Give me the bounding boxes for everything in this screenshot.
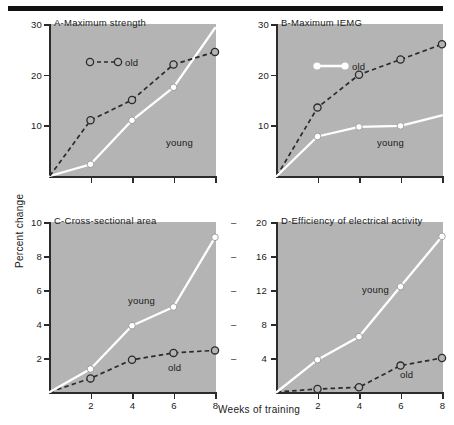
panel-b-old-markers (314, 41, 446, 112)
panel-b-annotation-young: young (377, 137, 404, 148)
panel-d-efficiency-of-electrical-activity: D-Efficiency of electrical activity 20 1… (227, 212, 454, 425)
panel-c-young-line-path (50, 237, 215, 392)
panel-d-annotation-young: young (362, 284, 389, 295)
figure-root: Percent change Weeks of training A-Maxim… (0, 0, 454, 425)
panel-d-young-markers (314, 233, 445, 363)
panel-b-legend-label-old: old (352, 61, 365, 72)
panel-a-series-svg (0, 0, 227, 212)
panel-a-old-line (50, 52, 215, 176)
panel-c-series-svg (0, 212, 227, 425)
panel-c-annotation-young: young (128, 295, 155, 306)
panel-d-series-svg (227, 212, 454, 425)
panel-a-annotation-young: young (166, 137, 193, 148)
panel-b-maximum-iemg: B-Maximum IEMG 30 20 10 (227, 0, 454, 212)
panel-c-annotation-old: old (168, 362, 181, 373)
panel-b-series-svg (227, 0, 454, 212)
panel-a-maximum-strength: A-Maximum strength 30 20 10 (0, 0, 227, 212)
panel-b-legend-key-old (313, 62, 348, 69)
panel-c-cross-sectional-area: C-Cross-sectional area 10 8 6 4 2 2 4 6 … (0, 212, 227, 425)
panel-d-annotation-old: old (400, 369, 413, 380)
panel-a-legend-label-old: old (125, 57, 138, 68)
panel-a-legend-key-old (86, 58, 121, 65)
panel-d-young-line (277, 236, 442, 392)
